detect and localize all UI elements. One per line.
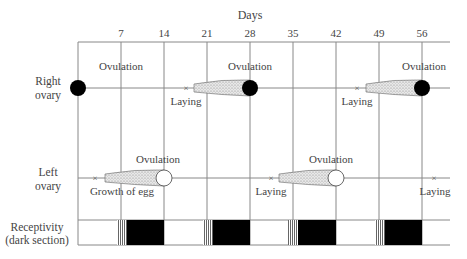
right-ovary-label: ovary (35, 89, 61, 102)
annotation-ovulation: Ovulation (136, 153, 180, 165)
annotation-laying: Laying (341, 95, 373, 107)
receptive-period (385, 220, 422, 245)
receptivity-onset (203, 220, 213, 245)
egg-growth-cone-icon (194, 80, 250, 96)
axis-title: Days (238, 8, 263, 22)
annotation-growth-of-egg: Growth of egg (90, 185, 155, 197)
right-ovary-row: × × Ovulation Laying Ovulation Laying Ov… (70, 60, 446, 107)
egg-growth-cone-icon (279, 170, 336, 186)
annotation-ovulation: Ovulation (309, 153, 353, 165)
laying-mark-icon: × (268, 173, 273, 183)
egg-icon (242, 80, 258, 96)
day-tick-labels: 7 14 21 28 35 42 49 56 (118, 27, 428, 39)
laying-mark-icon: × (92, 173, 97, 183)
receptive-period (213, 220, 250, 245)
annotation-laying: Laying (170, 95, 202, 107)
left-ovary-row: × × × Ovulation Growth of egg Laying Ovu… (90, 153, 451, 197)
left-ovary-label: Left (38, 166, 58, 178)
laying-mark-icon: × (354, 83, 359, 93)
tick-label: 7 (118, 27, 124, 39)
laying-mark-icon: × (183, 83, 188, 93)
annotation-ovulation: Ovulation (402, 60, 446, 72)
tick-label: 42 (331, 27, 342, 39)
receptive-period (298, 220, 336, 245)
receptivity-onset (117, 220, 127, 245)
egg-growth-cone-icon (366, 80, 422, 96)
annotation-ovulation: Ovulation (99, 60, 143, 72)
row-labels: Right ovary Left ovary Receptivity (dark… (5, 75, 69, 247)
receptivity-band (117, 220, 422, 245)
annotation-ovulation: Ovulation (228, 60, 272, 72)
egg-icon (414, 80, 430, 96)
annotation-laying: Laying (255, 185, 287, 197)
tick-label: 21 (202, 27, 213, 39)
annotation-laying: Laying (419, 185, 451, 197)
egg-growth-cone-icon (105, 170, 164, 186)
receptivity-onset (288, 220, 298, 245)
laying-mark-icon: × (431, 173, 436, 183)
receptive-period (127, 220, 164, 245)
receptivity-label: Receptivity (10, 221, 63, 234)
tick-label: 49 (374, 27, 386, 39)
grid (78, 42, 450, 245)
tick-label: 28 (245, 27, 257, 39)
right-ovary-label: Right (35, 75, 61, 88)
receptivity-label: (dark section) (5, 234, 69, 247)
tick-label: 35 (288, 27, 300, 39)
tick-label: 14 (159, 27, 171, 39)
egg-icon (156, 170, 172, 186)
ovulation-cycle-diagram: Days 7 14 21 28 35 42 49 56 Right ovary … (0, 0, 467, 259)
left-ovary-label: ovary (35, 180, 61, 193)
tick-label: 56 (417, 27, 429, 39)
egg-icon (70, 80, 86, 96)
receptivity-onset (375, 220, 385, 245)
egg-icon (328, 170, 344, 186)
